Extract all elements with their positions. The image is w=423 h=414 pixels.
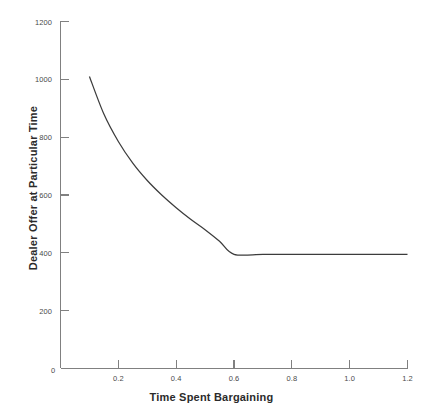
chart-figure: 1200 1000 800 600 400 200 0 0.2 0.4 0.6 … bbox=[0, 0, 423, 414]
x-axis-title: Time Spent Bargaining bbox=[0, 391, 423, 403]
x-tick-label-1-0: 1.0 bbox=[344, 374, 355, 383]
y-tick-label-1200: 1200 bbox=[24, 17, 52, 26]
y-axis-title: Dealer Offer at Particular Time bbox=[27, 88, 39, 288]
x-tick-label-0-2: 0.2 bbox=[113, 374, 124, 383]
x-tick-label-0-8: 0.8 bbox=[286, 374, 297, 383]
chart-plot-area bbox=[0, 0, 423, 414]
x-tick-marks bbox=[118, 360, 407, 369]
data-series-dealer-offer bbox=[89, 76, 407, 255]
x-tick-label-0-4: 0.4 bbox=[171, 374, 182, 383]
origin-label: 0 bbox=[51, 366, 55, 375]
y-tick-label-1000: 1000 bbox=[24, 75, 52, 84]
x-tick-label-1-2: 1.2 bbox=[402, 374, 413, 383]
y-tick-marks bbox=[61, 22, 70, 311]
x-tick-label-0-6: 0.6 bbox=[229, 374, 240, 383]
y-tick-label-200: 200 bbox=[24, 306, 52, 315]
